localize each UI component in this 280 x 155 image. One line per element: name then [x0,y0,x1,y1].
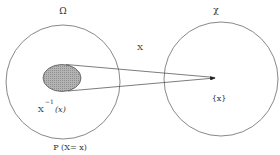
preimage-region [43,65,81,92]
preimage-superscript: −1 [45,98,54,105]
mapping-line-top [66,65,215,78]
image-point-label: {x} [212,94,227,103]
random-variable-diagram: Ω χ X {x} X −1 (x) P (X= x) [0,0,280,155]
sample-space-label: Ω [59,6,66,16]
preimage-base: X [38,105,44,114]
codomain-circle [164,22,278,136]
mapping-line-bottom [68,78,215,91]
preimage-label: X −1 (x) [38,98,66,114]
probability-label: P (X= x) [53,143,87,152]
preimage-arg: (x) [55,105,66,114]
codomain-label: χ [213,5,219,15]
mapping-label: X [137,43,143,52]
